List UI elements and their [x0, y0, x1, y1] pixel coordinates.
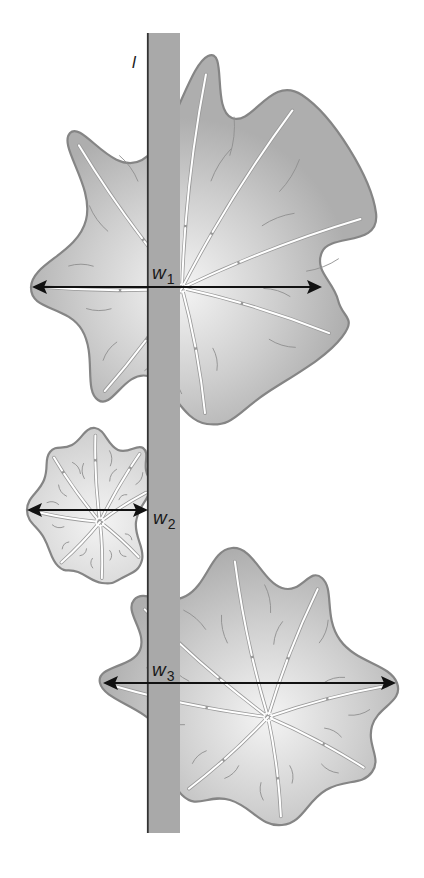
- blobs-layer: [27, 55, 398, 825]
- large-bottom-blob: [100, 548, 399, 825]
- diagram-canvas: l w1w2w3: [0, 0, 424, 878]
- blob-body: [31, 55, 376, 424]
- label-subscript: 3: [167, 668, 175, 684]
- bar-label-l: l: [132, 53, 137, 72]
- large-top-blob: [31, 55, 376, 424]
- small-middle-blob: [27, 428, 151, 584]
- blob-body: [100, 548, 399, 825]
- label-subscript: 1: [167, 271, 175, 287]
- label-subscript: 2: [168, 516, 176, 532]
- vertical-bar: [147, 33, 180, 833]
